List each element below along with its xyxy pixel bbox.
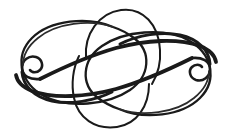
background-rect [0, 0, 232, 136]
artwork-canvas: Calligraphic flourish ornament Interlace… [0, 0, 232, 136]
flourish-ornament-graphic [0, 0, 232, 136]
